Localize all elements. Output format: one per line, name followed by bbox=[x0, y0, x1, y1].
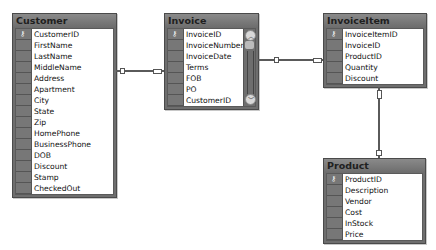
row-selector[interactable] bbox=[16, 128, 32, 139]
column-list: ⚷InvoiceID InvoiceNumber InvoiceDate Ter… bbox=[167, 28, 256, 107]
column-row[interactable]: State bbox=[16, 106, 113, 117]
column-row[interactable]: Address bbox=[16, 73, 113, 84]
column-name: InvoiceID bbox=[186, 30, 221, 39]
column-name: ProductID bbox=[345, 175, 382, 184]
row-selector[interactable] bbox=[168, 73, 184, 84]
column-row[interactable]: ProductID bbox=[327, 51, 423, 62]
column-name: LastName bbox=[34, 52, 72, 61]
column-list: ⚷ProductID Description Vendor Cost InSto… bbox=[326, 173, 423, 241]
row-selector[interactable] bbox=[16, 117, 32, 128]
column-row[interactable]: Apartment bbox=[16, 84, 113, 95]
scrollbar-track[interactable] bbox=[247, 51, 254, 94]
row-selector[interactable] bbox=[16, 183, 32, 194]
column-row[interactable]: LastName bbox=[16, 51, 113, 62]
column-row[interactable]: Price bbox=[327, 229, 422, 240]
column-name: InvoiceDate bbox=[186, 52, 231, 61]
table-product[interactable]: Product ⚷ProductID Description Vendor Co… bbox=[323, 158, 426, 244]
row-selector[interactable] bbox=[168, 84, 184, 95]
column-name: CustomerID bbox=[186, 96, 231, 105]
scroll-up-icon[interactable]: ︿ bbox=[245, 30, 256, 41]
row-selector[interactable] bbox=[16, 84, 32, 95]
column-name: Cost bbox=[345, 208, 362, 217]
row-selector[interactable] bbox=[16, 95, 32, 106]
column-row-invoiceitemid[interactable]: ⚷InvoiceItemID bbox=[327, 29, 423, 40]
column-row[interactable]: InStock bbox=[327, 218, 422, 229]
column-name: CustomerID bbox=[34, 30, 79, 39]
column-name: FirstName bbox=[34, 41, 72, 50]
column-row[interactable]: Zip bbox=[16, 117, 113, 128]
column-row[interactable]: InvoiceNumber bbox=[168, 40, 243, 51]
row-selector[interactable] bbox=[327, 51, 343, 62]
key-icon: ⚷ bbox=[20, 29, 25, 39]
column-row[interactable]: InvoiceDate bbox=[168, 51, 243, 62]
row-selector[interactable] bbox=[16, 73, 32, 84]
table-invoiceitem[interactable]: InvoiceItem ⚷InvoiceItemID InvoiceID Pro… bbox=[323, 13, 427, 88]
column-name: InStock bbox=[345, 219, 373, 228]
column-row[interactable]: Discount bbox=[16, 161, 113, 172]
row-selector[interactable] bbox=[327, 73, 343, 84]
key-icon: ⚷ bbox=[172, 29, 177, 39]
column-row[interactable]: Terms bbox=[168, 62, 243, 73]
column-name: Discount bbox=[345, 74, 378, 83]
column-name: Price bbox=[345, 230, 364, 239]
scroll-down-icon[interactable]: ﹀ bbox=[245, 94, 256, 105]
column-name: InvoiceItemID bbox=[345, 30, 398, 39]
column-row[interactable]: Discount bbox=[327, 73, 423, 84]
vertical-scrollbar[interactable]: ︿ ﹀ bbox=[243, 29, 255, 106]
column-row[interactable]: PO bbox=[168, 84, 243, 95]
column-name: Address bbox=[34, 74, 64, 83]
column-row-customerid[interactable]: ⚷CustomerID bbox=[16, 29, 113, 40]
table-invoice[interactable]: Invoice ⚷InvoiceID InvoiceNumber Invoice… bbox=[164, 13, 259, 110]
column-name: Apartment bbox=[34, 85, 75, 94]
column-row[interactable]: FOB bbox=[168, 73, 243, 84]
row-selector[interactable] bbox=[16, 150, 32, 161]
row-selector[interactable] bbox=[16, 161, 32, 172]
column-row[interactable]: Cost bbox=[327, 207, 422, 218]
key-endpoint-icon bbox=[120, 68, 125, 74]
row-selector[interactable] bbox=[327, 207, 343, 218]
column-row[interactable]: Description bbox=[327, 185, 422, 196]
scrollbar-thumb[interactable] bbox=[245, 41, 254, 49]
row-selector[interactable] bbox=[16, 139, 32, 150]
column-row[interactable]: CheckedOut bbox=[16, 183, 113, 194]
column-name: InvoiceNumber bbox=[186, 41, 244, 50]
row-selector[interactable] bbox=[168, 40, 184, 51]
column-name: FOB bbox=[186, 74, 202, 83]
row-selector[interactable] bbox=[327, 218, 343, 229]
column-row[interactable]: BusinessPhone bbox=[16, 139, 113, 150]
table-customer[interactable]: Customer ⚷CustomerID FirstName LastName … bbox=[12, 13, 117, 198]
column-name: InvoiceID bbox=[345, 41, 380, 50]
row-selector[interactable] bbox=[327, 196, 343, 207]
row-selector[interactable] bbox=[16, 51, 32, 62]
column-row[interactable]: HomePhone bbox=[16, 128, 113, 139]
row-selector[interactable] bbox=[16, 62, 32, 73]
column-row[interactable]: Quantity bbox=[327, 62, 423, 73]
key-icon: ⚷ bbox=[331, 29, 336, 39]
row-selector[interactable] bbox=[168, 95, 184, 106]
column-row[interactable]: InvoiceID bbox=[327, 40, 423, 51]
column-row[interactable]: FirstName bbox=[16, 40, 113, 51]
column-row[interactable]: City bbox=[16, 95, 113, 106]
column-row[interactable]: MiddleName bbox=[16, 62, 113, 73]
row-selector[interactable] bbox=[327, 40, 343, 51]
column-list: ⚷InvoiceItemID InvoiceID ProductID Quant… bbox=[326, 28, 424, 85]
column-row[interactable]: Vendor bbox=[327, 196, 422, 207]
row-selector[interactable] bbox=[168, 51, 184, 62]
infinity-endpoint-icon bbox=[153, 69, 162, 74]
column-row-productid[interactable]: ⚷ProductID bbox=[327, 174, 422, 185]
row-selector[interactable] bbox=[327, 229, 343, 240]
column-name: ProductID bbox=[345, 52, 382, 61]
row-selector[interactable] bbox=[168, 62, 184, 73]
table-title: Invoice bbox=[165, 14, 258, 28]
column-name: Description bbox=[345, 186, 388, 195]
column-name: Discount bbox=[34, 162, 67, 171]
column-row[interactable]: CustomerID bbox=[168, 95, 243, 106]
column-row[interactable]: Stamp bbox=[16, 172, 113, 183]
row-selector[interactable] bbox=[327, 62, 343, 73]
row-selector[interactable] bbox=[16, 40, 32, 51]
row-selector[interactable] bbox=[16, 172, 32, 183]
row-selector[interactable] bbox=[16, 106, 32, 117]
column-row[interactable]: DOB bbox=[16, 150, 113, 161]
column-row-invoiceid[interactable]: ⚷InvoiceID bbox=[168, 29, 243, 40]
row-selector[interactable] bbox=[327, 185, 343, 196]
